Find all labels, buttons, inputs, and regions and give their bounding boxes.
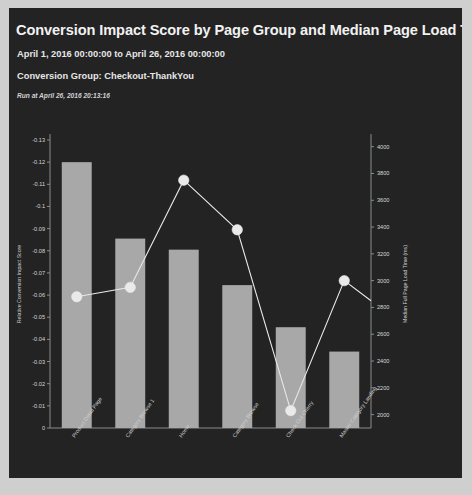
bar-3	[222, 285, 252, 428]
right-axis-tick-label: 3400	[377, 224, 389, 230]
left-axis-tick-label: -0.08	[32, 248, 45, 254]
left-axis-tick-label: -0.06	[32, 292, 45, 298]
right-axis-tick-label: 2800	[377, 304, 389, 310]
chart-card: Conversion Impact Score by Page Group an…	[9, 8, 462, 478]
line-marker-0	[72, 292, 82, 302]
date-range-label: April 1, 2016 00:00:00 to April 26, 2016…	[17, 49, 462, 59]
left-axis-tick-label: -0.02	[32, 381, 45, 387]
right-axis-tick-label: 4000	[377, 144, 389, 150]
line-marker-3	[232, 225, 242, 235]
right-axis-tick-label: 2200	[377, 385, 389, 391]
line-marker-2	[179, 175, 189, 185]
left-axis-title: Relative Conversion Impact Score	[16, 245, 22, 324]
line-marker-4	[286, 405, 296, 415]
left-axis-tick-label: -0.07	[32, 270, 45, 276]
left-axis-tick-label: -0.09	[32, 226, 45, 232]
right-axis-tick-label: 2400	[377, 358, 389, 364]
right-axis-title: Median Full Page Load Time (ms)	[402, 245, 408, 323]
page-title: Conversion Impact Score by Page Group an…	[16, 22, 462, 38]
left-axis-tick-label: -0.1	[35, 203, 45, 209]
left-axis-tick-label: -0.04	[32, 336, 45, 342]
line-marker-5	[339, 275, 349, 285]
right-axis-tick-label: 3800	[377, 170, 389, 176]
right-axis-tick-label: 3200	[377, 251, 389, 257]
conversion-group-label: Conversion Group: Checkout-ThankYou	[17, 71, 462, 81]
line-marker-1	[125, 282, 135, 292]
right-axis-tick-label: 2000	[377, 412, 389, 418]
left-axis-tick-label: -0.01	[32, 403, 45, 409]
run-timestamp-label: Run at April 26, 2016 20:13:16	[17, 92, 462, 99]
left-axis-tick-label: -0.05	[32, 314, 45, 320]
left-axis-tick-label: -0.13	[32, 137, 45, 143]
right-axis-tick-label: 3000	[377, 278, 389, 284]
bar-2	[169, 250, 199, 428]
left-axis-tick-label: -0.11	[33, 181, 45, 187]
combo-bar-line-chart: -0.13-0.12-0.11-0.1-0.09-0.08-0.07-0.06-…	[9, 126, 462, 478]
right-axis-tick-label: 3600	[377, 197, 389, 203]
left-axis-tick-label: -0.03	[32, 359, 45, 365]
report-header: Conversion Impact Score by Page Group an…	[9, 8, 462, 99]
left-axis-tick-label: -0.12	[32, 159, 45, 165]
left-axis-tick-label: 0	[42, 425, 45, 431]
chart-plot-area: -0.13-0.12-0.11-0.1-0.09-0.08-0.07-0.06-…	[9, 126, 462, 478]
right-axis-tick-label: 2600	[377, 331, 389, 337]
